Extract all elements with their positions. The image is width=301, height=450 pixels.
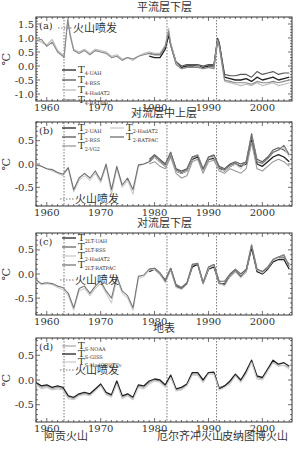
x-tick-label: 1990 — [196, 316, 221, 327]
legend: T2LT-UAHT2LT-RSST2-HadAT2T2LT-RATPAC火山喷发 — [60, 232, 119, 287]
series-line-t2lt-ratpac — [36, 245, 289, 308]
panel-title: 对流层下层 — [137, 216, 192, 230]
x-tick-label: 1970 — [88, 316, 113, 327]
y-tick-label: -0.5 — [15, 293, 34, 304]
y-tick-label: 0.5 — [18, 244, 34, 255]
x-tick-label: 1960 — [34, 102, 59, 113]
panel-a: 平流层下层196019701980199020001.51.00.50.0-0.… — [0, 0, 292, 113]
y-tick-label: 1.5 — [18, 19, 34, 30]
volcano-label-agung: 阿贡火山 — [44, 430, 88, 443]
panel-label: (a) — [39, 20, 53, 31]
panel-title: 平流层下层 — [137, 0, 192, 14]
panel-d: 地表196019701980199020000.50.0-0.5℃(d)TS-N… — [0, 321, 292, 434]
x-tick-label: 1970 — [88, 423, 113, 434]
panel-label: (b) — [39, 125, 53, 136]
y-tick-label: -0.5 — [15, 182, 34, 193]
y-tick-label: -1.0 — [15, 89, 34, 100]
volcano-legend-label: 火山喷发 — [75, 363, 119, 377]
panels-group: 平流层下层196019701980199020001.51.00.50.0-0.… — [0, 0, 292, 434]
plot-frame — [36, 338, 292, 422]
volcano-labels: 阿贡火山 厄尔齐冲火山 皮纳图博火山 — [44, 429, 288, 443]
y-axis-label: ℃ — [0, 158, 13, 170]
y-tick-label: 0.0 — [18, 375, 34, 386]
panel-c: 对流层下层196019701980199020000.50.0-0.5℃(c)T… — [0, 216, 292, 327]
y-axis-label: ℃ — [0, 374, 13, 386]
y-tick-label: 0.0 — [18, 269, 34, 280]
y-axis-label: ℃ — [0, 53, 13, 65]
y-tick-label: -0.5 — [15, 399, 34, 410]
x-tick-label: 1990 — [196, 102, 221, 113]
panel-label: (d) — [39, 341, 53, 352]
series-line-ts-noaa — [36, 361, 289, 399]
panel-title: 地表 — [153, 321, 175, 335]
y-axis-label: ℃ — [0, 268, 13, 280]
x-tick-label: 2000 — [250, 207, 275, 218]
y-tick-label: 0.5 — [18, 47, 34, 58]
series-line-ts-hadcrut2v — [36, 362, 289, 400]
x-tick-label: 1960 — [34, 207, 59, 218]
y-tick-label: 0.0 — [18, 159, 34, 170]
y-tick-label: 0.5 — [18, 350, 34, 361]
volcano-label-pinatubo: 皮纳图博火山 — [222, 430, 288, 443]
panel-label: (c) — [39, 236, 53, 247]
x-tick-label: 1960 — [34, 316, 59, 327]
series-line-ts-giss — [36, 360, 289, 397]
y-tick-label: -0.5 — [15, 75, 34, 86]
volcano-label-el-chichon: 厄尔齐冲火山 — [157, 429, 223, 443]
y-tick-label: 0.5 — [18, 135, 34, 146]
x-tick-label: 1990 — [196, 207, 221, 218]
y-tick-label: 1.0 — [18, 33, 34, 44]
x-tick-label: 1970 — [88, 207, 113, 218]
panel-title: 对流层中上层 — [131, 106, 197, 120]
volcano-legend-label: 火山喷发 — [73, 21, 117, 35]
volcano-legend-label: 火山喷发 — [75, 192, 119, 206]
panel-b: 对流层中上层196019701980199020000.50.0-0.5℃(b)… — [0, 106, 292, 218]
x-tick-label: 2000 — [250, 316, 275, 327]
y-tick-label: 0.0 — [18, 61, 34, 72]
climate-figure: 平流层下层196019701980199020001.51.00.50.0-0.… — [0, 0, 301, 450]
x-tick-label: 2000 — [250, 102, 275, 113]
volcano-legend-label: 火山喷发 — [75, 273, 119, 287]
legend: TS-NOAATS-GISSTS-HadCRUT2v火山喷发 — [60, 340, 122, 377]
